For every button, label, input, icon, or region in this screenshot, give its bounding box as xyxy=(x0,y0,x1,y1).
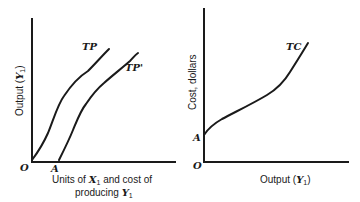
left-x-axis-label-line1: Units of X1 and cost of xyxy=(52,174,152,186)
tc-curve xyxy=(204,43,308,135)
left-y-axis-label: Output (Y1) xyxy=(14,65,26,116)
diagram-canvas: TP TP' O A Output (Y1) Units of X1 and c… xyxy=(0,0,360,202)
left-chart: TP TP' O A Output (Y1) Units of X1 and c… xyxy=(14,18,176,199)
right-x-axis-label: Output (Y1) xyxy=(260,174,311,186)
tp-prime-label: TP' xyxy=(125,62,143,73)
right-chart: TC A O Cost, dollars Output (Y1) xyxy=(187,8,349,186)
right-origin-label: O xyxy=(193,160,202,171)
tp-curve xyxy=(32,49,109,160)
tc-label: TC xyxy=(286,41,301,52)
tp-label: TP xyxy=(82,41,97,52)
right-point-a-label: A xyxy=(192,132,201,143)
right-y-axis-label: Cost, dollars xyxy=(187,54,198,110)
left-origin-label: O xyxy=(20,162,29,173)
left-point-a-label: A xyxy=(50,163,59,174)
left-x-axis-label-line2: producing Y1 xyxy=(75,187,133,199)
